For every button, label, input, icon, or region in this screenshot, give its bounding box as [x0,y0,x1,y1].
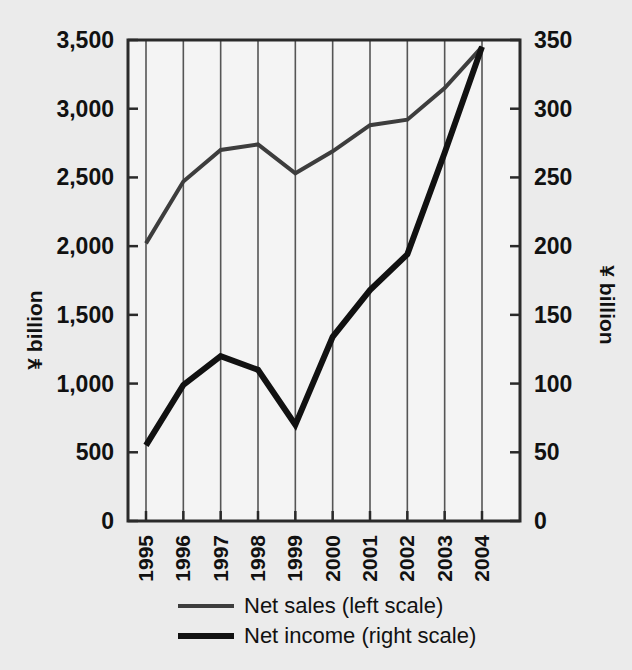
right-tick-label-50: 50 [534,439,560,465]
left-tick-label-2,500: 2,500 [56,164,114,190]
left-tick-label-0: 0 [101,508,114,534]
right-tick-label-100: 100 [534,371,572,397]
year-label-1999: 1999 [283,535,306,582]
year-label-1995: 1995 [134,535,157,582]
right-tick-label-0: 0 [534,508,547,534]
right-tick-label-300: 300 [534,96,572,122]
right-tick-label-350: 350 [534,27,572,53]
left-tick-label-500: 500 [76,439,114,465]
year-label-2001: 2001 [358,535,381,582]
right-tick-label-150: 150 [534,302,572,328]
year-label-1998: 1998 [246,535,269,582]
legend-label-0: Net sales (left scale) [244,593,443,618]
year-label-2000: 2000 [321,535,344,582]
right-axis-title: ¥ billion [596,265,619,344]
year-label-1996: 1996 [171,535,194,582]
legend-label-1: Net income (right scale) [244,623,476,648]
year-label-2003: 2003 [433,535,456,582]
line-chart: 05001,0001,5002,0002,5003,0003,500 05010… [0,0,632,670]
year-label-1997: 1997 [209,535,232,582]
left-tick-label-1,000: 1,000 [56,371,114,397]
left-axis-title: ¥ billion [23,290,46,369]
right-tick-label-250: 250 [534,164,572,190]
left-tick-label-3,500: 3,500 [56,27,114,53]
left-tick-label-2,000: 2,000 [56,233,114,259]
year-label-2002: 2002 [395,535,418,582]
left-tick-label-3,000: 3,000 [56,96,114,122]
right-tick-label-200: 200 [534,233,572,259]
year-label-2004: 2004 [470,535,493,582]
left-tick-label-1,500: 1,500 [56,302,114,328]
chart-container: 05001,0001,5002,0002,5003,0003,500 05010… [0,0,632,670]
